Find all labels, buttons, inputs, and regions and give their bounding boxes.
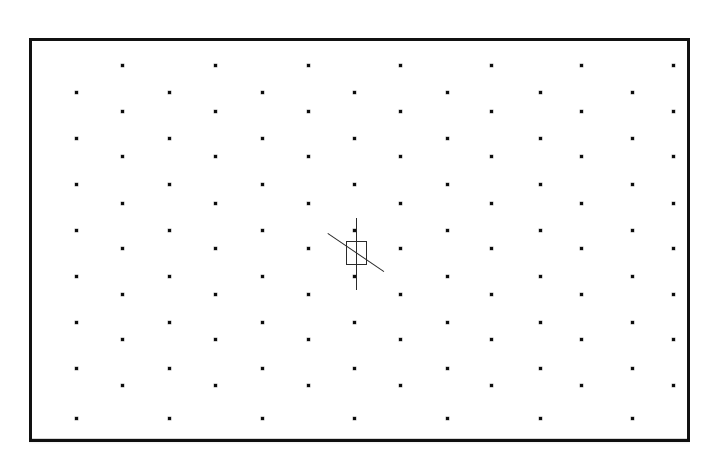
grid-dot [261, 137, 264, 140]
grid-dot [399, 110, 402, 113]
grid-dot [446, 417, 449, 420]
grid-dot [580, 293, 583, 296]
grid-dot [631, 367, 634, 370]
grid-dot [214, 110, 217, 113]
grid-dot [75, 275, 78, 278]
grid-dot [353, 275, 356, 278]
grid-dot [580, 155, 583, 158]
grid-dot [168, 137, 171, 140]
grid-dot [446, 275, 449, 278]
grid-dot [539, 137, 542, 140]
grid-dot [631, 321, 634, 324]
grid-dot [75, 229, 78, 232]
grid-dot [75, 367, 78, 370]
grid-dot [399, 247, 402, 250]
grid-dot [353, 91, 356, 94]
grid-dot [490, 64, 493, 67]
grid-dot [672, 384, 675, 387]
grid-dot [631, 229, 634, 232]
grid-dot [580, 64, 583, 67]
grid-dot [307, 247, 310, 250]
grid-dot [539, 91, 542, 94]
grid-dot [261, 229, 264, 232]
grid-dot [307, 202, 310, 205]
grid-dot [168, 275, 171, 278]
grid-dot [121, 64, 124, 67]
grid-dot [121, 110, 124, 113]
grid-dot [399, 202, 402, 205]
grid-dot [214, 338, 217, 341]
grid-dot [490, 384, 493, 387]
grid-dot [121, 384, 124, 387]
grid-dot [75, 137, 78, 140]
grid-dot [672, 293, 675, 296]
grid-dot [75, 91, 78, 94]
grid-dot [121, 155, 124, 158]
grid-dot [261, 91, 264, 94]
grid-dot [539, 417, 542, 420]
grid-dot [75, 417, 78, 420]
grid-dot [672, 338, 675, 341]
grid-dot [168, 417, 171, 420]
grid-dot [168, 321, 171, 324]
grid-dot [261, 275, 264, 278]
grid-dot [580, 202, 583, 205]
grid-dot [75, 183, 78, 186]
grid-dot [399, 64, 402, 67]
grid-dot [261, 417, 264, 420]
grid-dot [168, 229, 171, 232]
grid-dot [399, 338, 402, 341]
grid-dot [121, 293, 124, 296]
grid-dot [307, 64, 310, 67]
grid-dot [631, 137, 634, 140]
grid-dot [672, 247, 675, 250]
grid-dot [631, 91, 634, 94]
grid-dot [353, 321, 356, 324]
grid-dot [307, 155, 310, 158]
grid-dot [121, 202, 124, 205]
grid-dot [121, 247, 124, 250]
grid-dot [446, 367, 449, 370]
grid-dot [580, 247, 583, 250]
grid-dot [168, 183, 171, 186]
grid-dot [631, 275, 634, 278]
grid-dot [539, 183, 542, 186]
grid-dot [214, 202, 217, 205]
grid-dot [307, 293, 310, 296]
grid-dot [446, 91, 449, 94]
grid-dot [168, 91, 171, 94]
grid-dot [446, 137, 449, 140]
grid-dot [539, 275, 542, 278]
grid-dot [307, 338, 310, 341]
grid-dot [121, 338, 124, 341]
grid-dot [539, 229, 542, 232]
grid-dot [353, 229, 356, 232]
grid-dot [261, 367, 264, 370]
grid-dot [214, 247, 217, 250]
grid-dot [672, 110, 675, 113]
grid-dot [490, 155, 493, 158]
grid-dot [307, 384, 310, 387]
dot-grid-canvas[interactable] [32, 41, 693, 445]
grid-dot [214, 155, 217, 158]
grid-dot [490, 202, 493, 205]
grid-dot [261, 183, 264, 186]
grid-dot [399, 293, 402, 296]
grid-dot [672, 64, 675, 67]
grid-dot [446, 321, 449, 324]
grid-dot [353, 367, 356, 370]
grid-dot [539, 367, 542, 370]
grid-dot [75, 321, 78, 324]
grid-dot [353, 183, 356, 186]
grid-dot [631, 417, 634, 420]
grid-dot [446, 183, 449, 186]
grid-dot [307, 110, 310, 113]
grid-dot [214, 64, 217, 67]
app-root [0, 0, 717, 461]
grid-dot [580, 110, 583, 113]
grid-dot [580, 338, 583, 341]
grid-dot [353, 417, 356, 420]
grid-dot [490, 247, 493, 250]
grid-dot [580, 384, 583, 387]
grid-dot [353, 137, 356, 140]
